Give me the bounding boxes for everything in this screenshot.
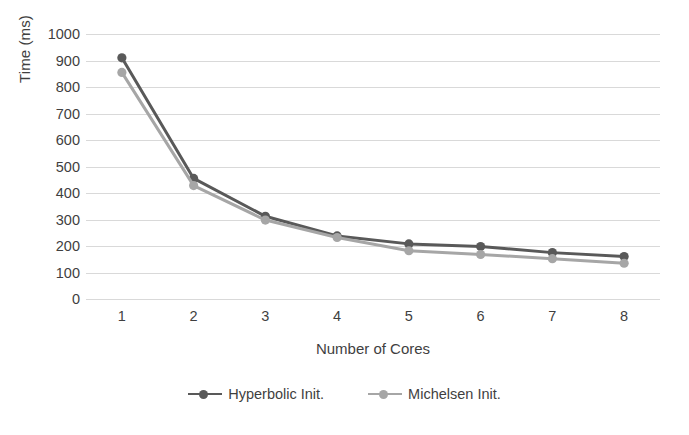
data-point-marker [117,68,126,77]
y-axis-title: Time (ms) [16,0,40,124]
legend-label: Michelsen Init. [408,386,501,402]
legend-item[interactable]: Hyperbolic Init. [188,386,324,402]
data-point-marker [333,233,342,242]
y-axis-tick-label: 900 [44,53,80,69]
plot-area [86,34,660,299]
line-chart: Time (ms) 100090080070060050040030020010… [0,0,689,435]
x-axis-title: Number of Cores [86,340,660,357]
legend-marker-icon [368,388,402,400]
x-axis-tick-label: 3 [245,308,285,324]
y-axis-tick-label: 400 [44,185,80,201]
x-axis-tick-label: 5 [389,308,429,324]
y-axis-tick-label: 600 [44,132,80,148]
data-point-marker [404,246,413,255]
plot-series-svg [86,34,660,299]
y-axis-tick-label: 500 [44,159,80,175]
series-line [122,72,624,263]
x-axis-tick-label: 1 [102,308,142,324]
y-axis-tick-label: 100 [44,265,80,281]
y-axis-tick-label: 800 [44,79,80,95]
y-axis-tick-label: 300 [44,212,80,228]
legend-marker-icon [188,388,222,400]
x-axis-tick-label: 2 [174,308,214,324]
y-axis-tick-label: 0 [44,291,80,307]
y-axis-tick-label: 200 [44,238,80,254]
data-point-marker [117,53,126,62]
data-point-marker [476,250,485,259]
legend-item[interactable]: Michelsen Init. [368,386,501,402]
series-line [122,58,624,257]
data-point-marker [548,254,557,263]
x-axis-tick-label: 6 [461,308,501,324]
data-point-marker [189,181,198,190]
legend-label: Hyperbolic Init. [228,386,324,402]
x-axis-tick-label: 8 [604,308,644,324]
x-axis-tick-label: 7 [532,308,572,324]
y-axis-tick-label: 1000 [44,26,80,42]
data-point-marker [261,215,270,224]
x-axis-tick-labels: 12345678 [86,308,660,332]
data-point-marker [620,259,629,268]
y-axis-tick-label: 700 [44,106,80,122]
data-point-marker [476,242,485,251]
y-axis-tick-labels: 10009008007006005004003002001000 [44,26,80,308]
chart-legend: Hyperbolic Init.Michelsen Init. [0,386,689,402]
x-axis-tick-label: 4 [317,308,357,324]
gridline [86,299,660,300]
